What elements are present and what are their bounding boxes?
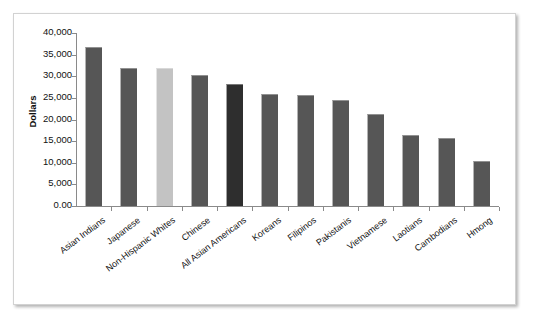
x-axis-tick-mark bbox=[464, 207, 465, 211]
x-axis-tick-mark bbox=[252, 207, 253, 211]
x-axis-tick-mark bbox=[182, 207, 183, 211]
y-axis-tick-mark bbox=[72, 33, 76, 34]
x-axis-tick-mark bbox=[429, 207, 430, 211]
y-axis-tick-mark bbox=[72, 76, 76, 77]
x-axis-tick-mark bbox=[358, 207, 359, 211]
y-axis-tick-mark bbox=[72, 206, 76, 207]
x-axis-tick-mark bbox=[147, 207, 148, 211]
x-axis-tick-mark bbox=[393, 207, 394, 211]
y-axis-tick-mark bbox=[72, 141, 76, 142]
y-axis-tick-mark bbox=[72, 98, 76, 99]
y-axis-tick-mark bbox=[72, 163, 76, 164]
x-axis-category-labels: Asian IndiansJapaneseNon-Hispanic Whites… bbox=[14, 14, 517, 306]
x-axis-tick-mark bbox=[323, 207, 324, 211]
x-axis-tick-mark bbox=[217, 207, 218, 211]
bar-chart-plot-area: 40,00035,00030,00025,00020,00015,00010,0… bbox=[14, 14, 517, 306]
x-axis-tick-mark bbox=[111, 207, 112, 211]
x-axis-tick-mark bbox=[288, 207, 289, 211]
y-axis-tick-mark bbox=[72, 184, 76, 185]
y-axis-tick-mark bbox=[72, 55, 76, 56]
y-axis-tick-mark bbox=[72, 120, 76, 121]
chart-figure-frame: 40,00035,00030,00025,00020,00015,00010,0… bbox=[13, 13, 516, 305]
x-axis-tick-mark bbox=[499, 207, 500, 211]
